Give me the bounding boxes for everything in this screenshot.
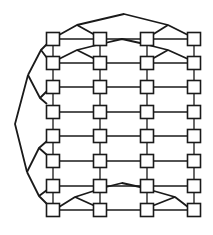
node-r5-c2 (94, 130, 107, 143)
grid-nodes (47, 33, 201, 217)
node-r5-c1 (47, 130, 60, 143)
node-r4-c4 (188, 106, 201, 119)
node-r3-c4 (188, 81, 201, 94)
left-tree-d-stem (27, 172, 39, 196)
node-r2-c1 (47, 57, 60, 70)
top-arc-1-branch-left (77, 25, 95, 35)
node-r2-c3 (141, 57, 154, 70)
node-r1-c4 (188, 33, 201, 46)
node-r5-c3 (141, 130, 154, 143)
node-r4-c2 (94, 106, 107, 119)
node-r4-c3 (141, 106, 154, 119)
node-r7-c2 (94, 180, 107, 193)
node-r7-c4 (188, 180, 201, 193)
left-tree-b-stem (28, 75, 40, 98)
left-tree-a-stem (28, 50, 41, 75)
node-r3-c2 (94, 81, 107, 94)
node-r7-c3 (141, 180, 154, 193)
grid-edges (53, 39, 194, 210)
node-r2-c4 (188, 57, 201, 70)
bottom-arc-branch-left (75, 197, 95, 206)
top-arc-2-branch-right (152, 50, 168, 59)
node-r6-c3 (141, 155, 154, 168)
node-r1-c2 (94, 33, 107, 46)
node-r3-c3 (141, 81, 154, 94)
left-tree-root (15, 75, 28, 172)
node-r3-c1 (47, 81, 60, 94)
bottom-arc-branch-right (152, 197, 175, 206)
node-r8-c4 (188, 204, 201, 217)
node-r6-c2 (94, 155, 107, 168)
node-r5-c4 (188, 130, 201, 143)
top-arc-1-branch-right (152, 25, 168, 35)
top-arc-2 (59, 39, 188, 59)
node-r6-c1 (47, 155, 60, 168)
node-r4-c1 (47, 106, 60, 119)
graph-canvas (0, 0, 213, 235)
graph-diagram (0, 0, 213, 235)
node-r8-c3 (141, 204, 154, 217)
node-r1-c1 (47, 33, 60, 46)
node-r8-c2 (94, 204, 107, 217)
left-tree-c-stem (27, 148, 39, 172)
node-r6-c4 (188, 155, 201, 168)
node-r2-c2 (94, 57, 107, 70)
top-arc-2-branch-left (77, 50, 95, 59)
node-r8-c1 (47, 204, 60, 217)
node-r7-c1 (47, 180, 60, 193)
node-r1-c3 (141, 33, 154, 46)
top-arc-1 (59, 14, 188, 35)
